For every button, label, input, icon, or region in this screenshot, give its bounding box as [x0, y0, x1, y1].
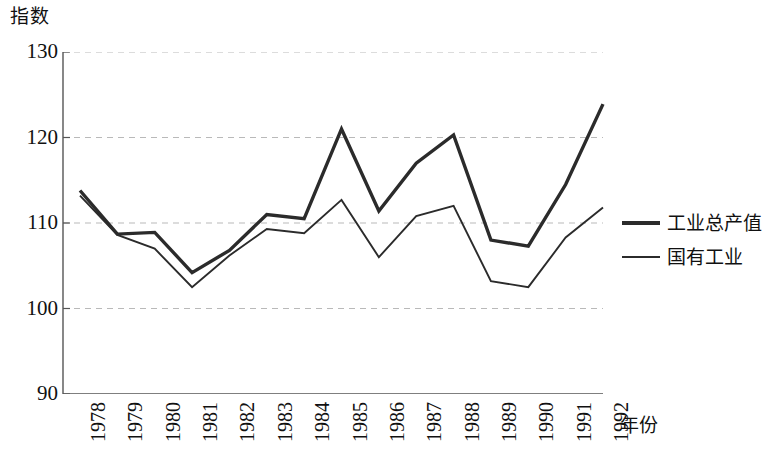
- y-tick-label-110: 110: [12, 212, 58, 233]
- legend-item-label: 国有工业: [667, 247, 743, 268]
- series-line-1: [80, 104, 603, 272]
- plot-svg: [62, 52, 607, 394]
- x-tick-label-1980: 1980: [163, 402, 183, 442]
- x-axis-tick-labels: 1978197919801981198219831984198519861987…: [62, 394, 622, 449]
- x-tick-label-1978: 1978: [88, 402, 108, 442]
- x-tick-label-1990: 1990: [536, 402, 556, 442]
- x-tick-label-1979: 1979: [125, 402, 145, 442]
- x-tick-label-1981: 1981: [200, 402, 220, 442]
- x-axis-title: 年份: [620, 416, 658, 436]
- legend-item-2[interactable]: 国有工业: [622, 240, 770, 274]
- legend-line-swatch-icon: [622, 221, 660, 224]
- x-tick-label-1983: 1983: [275, 402, 295, 442]
- legend-item-label: 工业总产值: [667, 213, 762, 234]
- legend-item-1[interactable]: 工业总产值: [622, 206, 770, 240]
- y-axis-tick-labels: 90100110120130: [8, 0, 58, 449]
- x-tick-label-1985: 1985: [350, 402, 370, 442]
- plot-area: [62, 52, 607, 394]
- legend-line-swatch-icon: [622, 256, 660, 258]
- series-line-2: [80, 196, 603, 287]
- x-tick-label-1989: 1989: [499, 402, 519, 442]
- x-tick-label-1991: 1991: [574, 402, 594, 442]
- x-tick-label-1986: 1986: [387, 402, 407, 442]
- y-tick-label-90: 90: [12, 383, 58, 404]
- x-tick-label-1984: 1984: [312, 402, 332, 442]
- x-tick-label-1988: 1988: [462, 402, 482, 442]
- y-tick-label-130: 130: [12, 41, 58, 62]
- x-tick-label-1982: 1982: [237, 402, 257, 442]
- chart-legend: 工业总产值国有工业: [622, 206, 770, 274]
- industrial-index-line-chart: 指数 90100110120130 1978197919801981198219…: [0, 0, 771, 449]
- x-tick-label-1987: 1987: [424, 402, 444, 442]
- y-tick-label-100: 100: [12, 298, 58, 319]
- y-tick-label-120: 120: [12, 127, 58, 148]
